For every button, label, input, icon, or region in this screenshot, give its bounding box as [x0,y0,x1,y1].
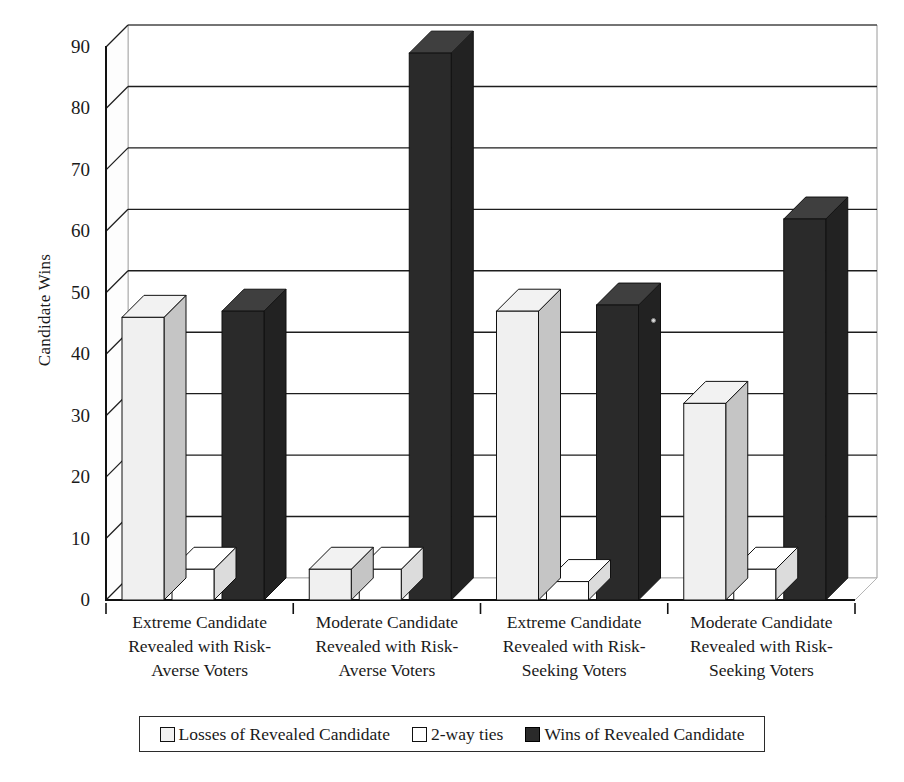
x-axis-category-label-4: Moderate CandidateRevealed with Risk-See… [665,610,857,682]
legend-item-label: Wins of Revealed Candidate [544,724,744,745]
category-label-line: Averse Voters [291,658,483,682]
x-axis-category-label-1: Extreme CandidateRevealed with Risk-Aver… [104,610,296,682]
wins-swatch [525,727,540,742]
category-label-line: Revealed with Risk- [665,634,857,658]
category-label-line: Extreme Candidate [478,610,670,634]
bar-3-1 [497,289,561,600]
category-label-line: Seeking Voters [478,658,670,682]
bar-1-1 [122,295,186,600]
legend-item-3[interactable]: Wins of Revealed Candidate [525,724,744,745]
scan-artifact-speck [651,318,656,323]
x-axis-category-label-2: Moderate CandidateRevealed with Risk-Ave… [291,610,483,682]
losses-swatch [160,727,175,742]
chart-legend: Losses of Revealed Candidate2-way tiesWi… [139,716,765,752]
category-label-line: Averse Voters [104,658,296,682]
legend-item-label: 2-way ties [431,724,503,745]
chart-container: Candidate Wins 0102030405060708090 Extre… [0,0,904,782]
bar-2-3 [409,31,473,600]
category-label-line: Revealed with Risk- [104,634,296,658]
x-axis-category-labels: Extreme CandidateRevealed with Risk-Aver… [0,610,904,690]
x-axis-category-label-3: Extreme CandidateRevealed with Risk-Seek… [478,610,670,682]
category-label-line: Revealed with Risk- [478,634,670,658]
category-label-line: Moderate Candidate [665,610,857,634]
legend-item-label: Losses of Revealed Candidate [179,724,390,745]
legend-item-2[interactable]: 2-way ties [412,724,503,745]
ties-swatch [412,727,427,742]
legend-item-1[interactable]: Losses of Revealed Candidate [160,724,390,745]
bar-3-3 [597,283,661,600]
bar-4-3 [784,197,848,600]
category-label-line: Extreme Candidate [104,610,296,634]
category-label-line: Moderate Candidate [291,610,483,634]
category-label-line: Seeking Voters [665,658,857,682]
bar-4-1 [684,381,748,600]
category-label-line: Revealed with Risk- [291,634,483,658]
